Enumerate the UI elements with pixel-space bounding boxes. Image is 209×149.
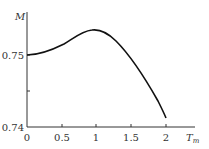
x-axis-title: Tm [186, 132, 200, 145]
x-tick-label-15: 1.5 [123, 132, 139, 143]
data-line-M [27, 30, 166, 118]
y-tick-label-074: 0.74 [2, 122, 24, 133]
y-tick-label-075: 0.75 [2, 50, 24, 61]
x-tick-label-2: 2 [163, 132, 169, 143]
x-tick-label-05: 0.5 [54, 132, 70, 143]
y-axis-title: M [14, 11, 26, 22]
x-axis-title-sub: m [193, 137, 200, 145]
x-tick-label-0: 0 [24, 132, 30, 143]
line-chart: 0.75 0.74 0 0.5 1 1.5 2 M Tm [0, 0, 209, 149]
x-tick-label-1: 1 [93, 132, 99, 143]
